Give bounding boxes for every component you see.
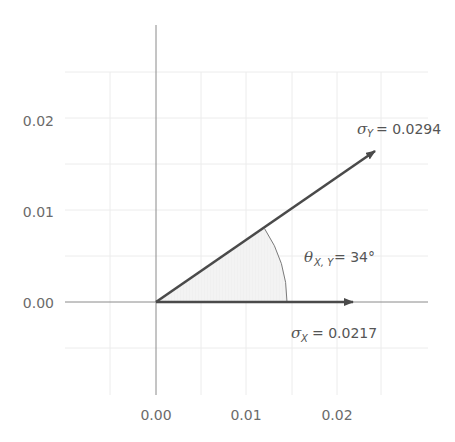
theta-symbol: θ <box>304 248 313 266</box>
x-tick-label: 0.00 <box>140 407 171 423</box>
sigma-y-subscript: Y <box>367 128 374 139</box>
y-tick-label: 0.00 <box>23 295 54 311</box>
label-theta: θ X, Y = 34° <box>304 248 375 268</box>
y-tick-label: 0.02 <box>23 113 54 129</box>
y-tick-label: 0.01 <box>23 204 54 220</box>
theta-value: = 34° <box>334 249 375 265</box>
grid <box>65 72 428 395</box>
sigma-x-subscript: X <box>300 333 309 344</box>
sigma-y-value: = 0.0294 <box>376 121 441 137</box>
theta-subscript: X, Y <box>313 257 334 268</box>
x-tick-label: 0.01 <box>230 407 261 423</box>
vector-angle-diagram: 0.02 0.01 0.00 0.00 0.01 0.02 σ Y = 0.02… <box>0 0 455 442</box>
label-sigma-x: σ X = 0.0217 <box>291 324 377 344</box>
sigma-x-value: = 0.0217 <box>312 325 377 341</box>
angle-sector-shade <box>156 229 287 302</box>
label-sigma-y: σ Y = 0.0294 <box>357 120 441 139</box>
x-tick-label: 0.02 <box>321 407 352 423</box>
